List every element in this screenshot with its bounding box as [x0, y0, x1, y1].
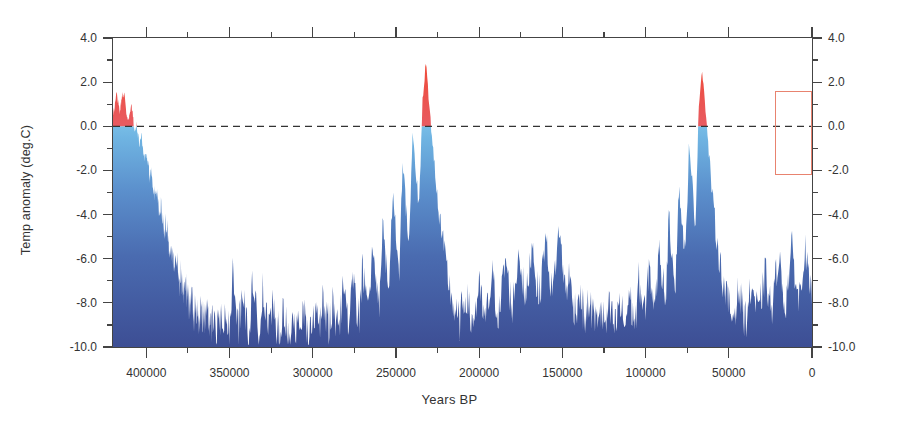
bottom-x-minor-tick: [520, 347, 521, 353]
y-axis-title: Temp anomaly (deg.C): [14, 60, 38, 320]
x-tick-label: 150000: [542, 366, 582, 380]
left-y-major-tick: [103, 346, 113, 347]
top-x-major-tick: [811, 27, 812, 38]
right-y-major-tick: [812, 126, 822, 127]
left-y-major-tick: [103, 258, 113, 259]
right-y-major-tick: [812, 258, 822, 259]
right-y-major-tick: [812, 214, 822, 215]
chart-figure: Temp anomaly (deg.C) 4.02.00.0-2.0-4.0-6…: [0, 0, 899, 435]
left-y-major-tick: [103, 126, 113, 127]
left-y-tick-label: 4.0: [80, 31, 97, 45]
right-y-tick-label: -4.0: [828, 208, 849, 222]
right-y-minor-tick: [812, 280, 818, 281]
right-y-minor-tick: [812, 324, 818, 325]
top-x-major-tick: [395, 27, 396, 38]
bottom-x-minor-tick: [271, 347, 272, 353]
bottom-x-major-tick: [479, 347, 480, 358]
temperature-anomaly-area-chart: [113, 38, 812, 347]
right-y-minor-tick: [812, 59, 818, 60]
left-y-tick-label: -6.0: [76, 252, 97, 266]
area-below-zero: [113, 64, 812, 347]
x-tick-label: 50000: [712, 366, 745, 380]
bottom-x-major-tick: [728, 347, 729, 358]
right-y-major-tick: [812, 346, 822, 347]
right-y-minor-tick: [812, 104, 818, 105]
bottom-x-minor-tick: [354, 347, 355, 353]
x-tick-label: 0: [809, 366, 816, 380]
right-y-minor-tick: [812, 192, 818, 193]
bottom-x-major-tick: [395, 347, 396, 358]
left-y-major-tick: [103, 302, 113, 303]
bottom-x-minor-tick: [603, 347, 604, 353]
right-y-tick-label: -10.0: [828, 340, 855, 354]
left-y-major-tick: [103, 214, 113, 215]
bottom-x-minor-tick: [187, 347, 188, 353]
top-x-major-tick: [146, 27, 147, 38]
right-y-major-tick: [812, 37, 822, 38]
left-y-tick-label: -8.0: [76, 296, 97, 310]
x-tick-label: 300000: [293, 366, 333, 380]
right-y-tick-label: -2.0: [828, 163, 849, 177]
left-y-major-tick: [103, 82, 113, 83]
left-y-tick-label: 0.0: [80, 119, 97, 133]
right-y-major-tick: [812, 82, 822, 83]
right-y-tick-label: -6.0: [828, 252, 849, 266]
right-y-major-tick: [812, 170, 822, 171]
bottom-x-major-tick: [645, 347, 646, 358]
x-tick-label: 350000: [209, 366, 249, 380]
x-tick-label: 400000: [126, 366, 166, 380]
bottom-x-major-tick: [562, 347, 563, 358]
right-y-tick-label: 2.0: [828, 75, 845, 89]
left-y-major-tick: [103, 37, 113, 38]
right-y-tick-label: -8.0: [828, 296, 849, 310]
x-axis-title: Years BP: [0, 392, 899, 407]
left-y-major-tick: [103, 170, 113, 171]
right-y-minor-tick: [812, 148, 818, 149]
left-y-tick-label: -10.0: [70, 340, 97, 354]
top-x-major-tick: [645, 27, 646, 38]
plot-area: [113, 38, 812, 347]
bottom-x-minor-tick: [687, 347, 688, 353]
top-x-major-tick: [562, 27, 563, 38]
bottom-x-major-tick: [811, 347, 812, 358]
left-y-tick-label: -2.0: [76, 163, 97, 177]
right-y-minor-tick: [812, 236, 818, 237]
bottom-x-minor-tick: [437, 347, 438, 353]
right-y-tick-label: 4.0: [828, 31, 845, 45]
y-axis-title-text: Temp anomaly (deg.C): [19, 125, 33, 255]
left-y-tick-label: -4.0: [76, 208, 97, 222]
top-x-major-tick: [312, 27, 313, 38]
right-y-tick-label: 0.0: [828, 119, 845, 133]
top-x-major-tick: [479, 27, 480, 38]
x-tick-label: 100000: [626, 366, 666, 380]
bottom-x-major-tick: [312, 347, 313, 358]
x-tick-label: 250000: [376, 366, 416, 380]
left-y-tick-label: 2.0: [80, 75, 97, 89]
x-tick-label: 200000: [459, 366, 499, 380]
top-x-major-tick: [229, 27, 230, 38]
bottom-x-major-tick: [229, 347, 230, 358]
bottom-x-major-tick: [146, 347, 147, 358]
top-x-major-tick: [728, 27, 729, 38]
bottom-axis-line: [112, 347, 813, 348]
right-y-major-tick: [812, 302, 822, 303]
